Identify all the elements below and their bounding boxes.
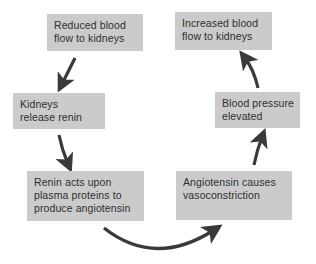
arrow-reduced-to-kidneys (62, 58, 75, 84)
node-text-line: Increased blood (182, 17, 265, 30)
arrow-renin-to-vasoconstriction (104, 228, 214, 249)
arrow-vasoconstriction-to-bp (254, 137, 262, 165)
node-text-line: elevated (222, 110, 293, 123)
node-text-line: Blood pressure (222, 97, 293, 110)
node-text-line: release renin (20, 111, 98, 124)
node-reduced-blood-flow: Reduced blood flow to kidneys (47, 14, 143, 51)
node-text-line: produce angiotensin (34, 202, 137, 215)
node-kidneys-release-renin: Kidneys release renin (13, 93, 105, 129)
arrow-kidneys-to-renin (59, 135, 68, 164)
node-text-line: Angiotensin causes (183, 176, 285, 189)
node-text-line: Kidneys (20, 98, 98, 111)
node-text-line: flow to kidneys (54, 32, 136, 45)
node-renin-acts: Renin acts upon plasma proteins to produ… (27, 171, 144, 221)
node-angiotensin-vasoconstriction: Angiotensin causes vasoconstriction (176, 171, 292, 220)
node-text-line: Reduced blood (54, 19, 136, 32)
node-text-line: Renin acts upon (34, 176, 137, 189)
node-text-line: plasma proteins to (34, 189, 137, 202)
arrow-bp-to-increased (245, 58, 258, 88)
node-increased-blood-flow: Increased blood flow to kidneys (175, 12, 272, 50)
node-blood-pressure-elevated: Blood pressure elevated (215, 92, 300, 128)
node-text-line: vasoconstriction (183, 189, 285, 202)
node-text-line: flow to kidneys (182, 30, 265, 43)
